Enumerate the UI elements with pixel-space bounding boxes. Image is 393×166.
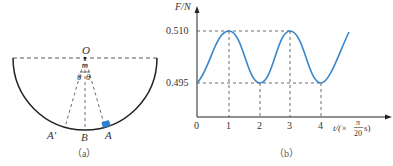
x-tick-3: 3 [287,120,292,131]
x-axis-label-suffix: s) [364,123,371,133]
label-A: A [104,129,112,141]
label-A-prime: A' [46,129,57,141]
center-point [84,57,86,59]
x-axis-label-20: 20 [354,129,362,138]
caption-a: （a） [72,148,96,159]
y-axis-arrow-icon [195,6,200,13]
x-tick-2: 2 [257,120,262,131]
label-theta-right: θ [86,72,91,82]
x-axis-arrow-icon [385,115,392,120]
y-axis-label: F/N [174,1,192,12]
x-tick-0: 0 [194,120,199,131]
label-B: B [81,131,88,143]
figure-canvas: O m θ θ A' B A （a） F/N 0.510 0.495 0 1 2… [0,0,393,166]
force-curve [197,31,349,83]
x-tick-1: 1 [226,120,231,131]
caption-b: （b） [274,148,299,159]
label-O: O [82,44,90,56]
radius-OA [85,58,105,127]
y-tick-0495: 0.495 [166,77,189,88]
figure-b-axes [195,6,393,120]
label-theta-left: θ [77,72,82,82]
label-m: m [82,61,88,70]
x-axis-label-pi: π [356,118,360,127]
block-at-A [101,120,110,128]
x-axis-label-prefix: t/(× [333,123,347,133]
x-tick-4: 4 [318,120,323,131]
y-tick-0510: 0.510 [166,25,189,36]
